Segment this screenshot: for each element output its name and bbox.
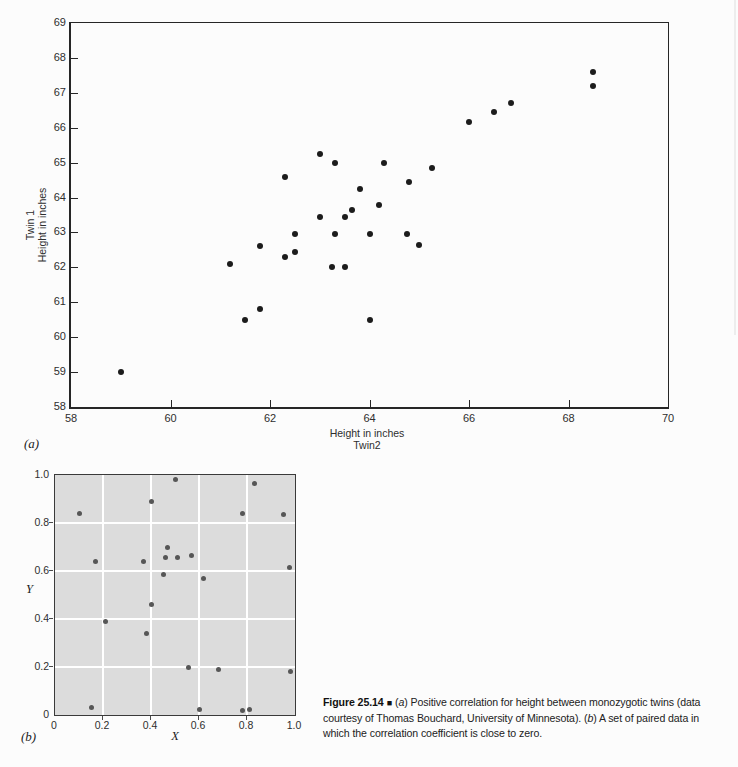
gridline-horizontal <box>55 666 295 668</box>
y-tick-mark <box>71 128 78 129</box>
data-point <box>466 119 472 125</box>
y-tick-label: 0.2 <box>19 660 49 672</box>
x-tick-label: 62 <box>253 412 287 424</box>
scatter-plot-twins <box>69 22 669 409</box>
gridline-horizontal <box>55 522 295 524</box>
data-point <box>165 545 170 550</box>
x-axis-title-line1: Height in inches <box>330 428 405 440</box>
black-square-icon: ■ <box>387 698 392 708</box>
panel-label-a: (a) <box>24 436 39 452</box>
data-point <box>282 174 288 180</box>
data-point <box>144 631 149 636</box>
data-point <box>349 207 355 213</box>
panel-label-b: (b) <box>21 729 36 745</box>
data-point <box>367 231 373 237</box>
gridline-vertical <box>102 475 104 715</box>
y-tick-mark <box>71 372 78 373</box>
y-tick-label: 68 <box>22 51 66 63</box>
y-tick-mark <box>71 93 78 94</box>
y-tick-label: 0.6 <box>19 564 49 576</box>
data-point <box>173 477 178 482</box>
caption-line-2: courtesy of Thomas Bouchard, University … <box>323 711 737 726</box>
caption-text: ) Positive correlation for height betwee… <box>404 696 700 708</box>
x-axis-title-line2: Twin2 <box>330 440 405 452</box>
data-point <box>89 705 94 710</box>
x-tick-label: 66 <box>452 412 486 424</box>
x-tick-label: 0.8 <box>231 719 261 731</box>
data-point <box>77 511 82 516</box>
y-tick-mark <box>71 267 78 268</box>
data-point <box>201 576 206 581</box>
caption-line-3: which the correlation coefficient is clo… <box>323 726 737 741</box>
x-tick-mark <box>469 400 470 407</box>
x-tick-label: 0.6 <box>183 719 213 731</box>
gridline-horizontal <box>55 570 295 572</box>
x-tick-label: 60 <box>154 412 188 424</box>
y-tick-mark <box>71 232 78 233</box>
data-point <box>317 214 323 220</box>
y-tick-label: 0.4 <box>19 612 49 624</box>
data-point <box>161 572 166 577</box>
caption-text: ) A set of paired data in <box>593 712 699 724</box>
data-point <box>247 707 252 712</box>
y-tick-label: 66 <box>22 121 66 133</box>
data-point <box>216 667 221 672</box>
data-point <box>404 231 410 237</box>
data-point <box>367 317 373 323</box>
x-axis-title-random: X <box>171 729 179 744</box>
x-tick-mark <box>569 400 570 407</box>
y-tick-mark <box>49 522 53 523</box>
data-point <box>288 669 293 674</box>
data-point <box>149 602 154 607</box>
data-point <box>429 165 435 171</box>
data-point <box>242 317 248 323</box>
data-point <box>149 499 154 504</box>
y-axis-title-random: Y <box>26 582 33 597</box>
x-tick-label: 64 <box>353 412 387 424</box>
data-point <box>282 254 288 260</box>
y-tick-label: 0.8 <box>19 516 49 528</box>
x-tick-label: 0.4 <box>135 719 165 731</box>
data-point <box>292 249 298 255</box>
data-point <box>93 559 98 564</box>
data-point <box>508 100 514 106</box>
caption-figure-number: Figure 25.14 <box>323 696 384 708</box>
y-tick-label: 69 <box>22 16 66 28</box>
y-tick-label: 59 <box>22 365 66 377</box>
y-tick-mark <box>49 570 53 571</box>
data-point <box>189 553 194 558</box>
figure-page: { "figure": { "panel_a_label": "(a)", "p… <box>0 0 738 767</box>
gridline-vertical <box>246 475 248 715</box>
data-point <box>281 512 286 517</box>
y-tick-mark <box>71 163 78 164</box>
data-point <box>292 231 298 237</box>
y-tick-mark <box>71 198 78 199</box>
y-tick-label: 60 <box>22 330 66 342</box>
data-point <box>257 306 263 312</box>
data-point <box>103 619 108 624</box>
data-point <box>252 481 257 486</box>
data-point <box>342 264 348 270</box>
x-tick-mark <box>270 400 271 407</box>
y-tick-mark <box>71 58 78 59</box>
data-point <box>257 243 263 249</box>
x-tick-label: 68 <box>552 412 586 424</box>
data-point <box>175 555 180 560</box>
figure-caption: Figure 25.14■(a) Positive correlation fo… <box>323 695 737 742</box>
data-point <box>357 186 363 192</box>
y-tick-label: 58 <box>22 400 66 412</box>
x-tick-label: 70 <box>651 412 685 424</box>
data-point <box>240 511 245 516</box>
x-tick-label: 0.2 <box>87 719 117 731</box>
data-point <box>381 160 387 166</box>
data-point <box>329 264 335 270</box>
x-tick-mark <box>171 400 172 407</box>
x-tick-label: 0 <box>39 719 69 731</box>
caption-text: courtesy of Thomas Bouchard, University … <box>323 712 587 724</box>
data-point <box>163 555 168 560</box>
data-point <box>590 83 596 89</box>
data-point <box>118 369 124 375</box>
y-tick-mark <box>49 618 53 619</box>
data-point <box>491 109 497 115</box>
data-point <box>332 160 338 166</box>
